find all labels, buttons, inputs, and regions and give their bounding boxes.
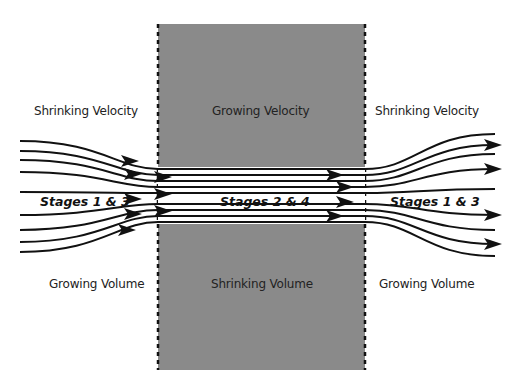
left-bottom-label: Growing Volume — [49, 277, 144, 291]
right-bottom-label: Growing Volume — [379, 277, 474, 291]
middle-bottom-label: Shrinking Volume — [211, 277, 313, 291]
middle-top-label: Growing Velocity — [212, 104, 309, 118]
right-stage-label: Stages 1 & 3 — [390, 194, 480, 209]
left-top-label: Shrinking Velocity — [34, 104, 138, 118]
middle-stage-label: Stages 2 & 4 — [220, 194, 310, 209]
left-stage-label: Stages 1 & 3 — [40, 194, 130, 209]
right-top-label: Shrinking Velocity — [375, 104, 479, 118]
